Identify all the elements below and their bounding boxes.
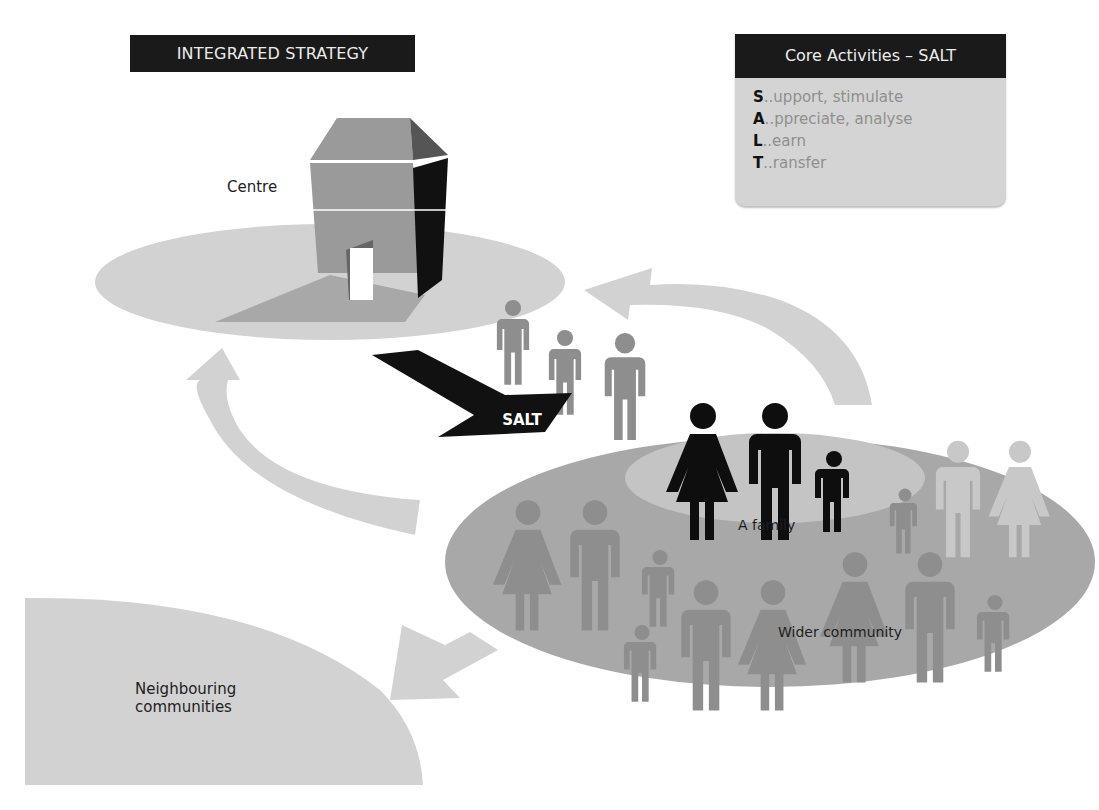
salt-item-transfer: T..ransfer	[753, 152, 1006, 174]
centre-label: Centre	[227, 178, 277, 196]
core-activities-box: Core Activities – SALT S..upport, stimul…	[735, 34, 1006, 206]
family-label: A family	[738, 517, 795, 533]
house-centre-icon	[310, 118, 448, 300]
salt-arrow	[372, 350, 572, 437]
salt-item-support: S..upport, stimulate	[753, 86, 1006, 108]
return-arrow-left	[186, 348, 420, 535]
core-activities-list: S..upport, stimulate A..ppreciate, analy…	[735, 78, 1006, 174]
neighbouring-communities-label: Neighbouring communities	[135, 680, 236, 716]
salt-item-learn: L..earn	[753, 130, 1006, 152]
core-activities-header: Core Activities – SALT	[735, 34, 1006, 78]
salt-item-appreciate: A..ppreciate, analyse	[753, 108, 1006, 130]
salt-arrow-label: SALT	[502, 411, 542, 429]
wider-community-label: Wider community	[778, 624, 902, 640]
diagram-title: INTEGRATED STRATEGY	[130, 35, 415, 72]
outreach-arrow	[390, 625, 498, 700]
